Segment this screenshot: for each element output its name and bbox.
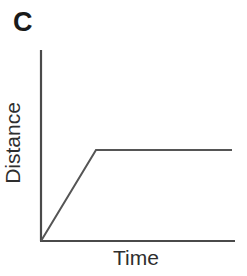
y-axis-label: Distance [0, 88, 26, 198]
x-axis-label: Time [86, 246, 186, 270]
distance-time-curve [41, 150, 232, 241]
figure-panel-c: C Distance Time [0, 0, 247, 276]
plot-area [0, 0, 247, 276]
